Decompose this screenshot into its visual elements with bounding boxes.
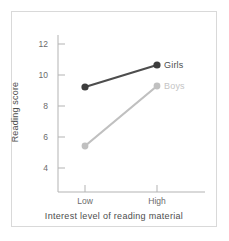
series-line-boys [85, 86, 157, 146]
y-axis-title: Reading score [10, 70, 20, 154]
chart-plot-area [0, 0, 229, 241]
y-tick-label-8: 8 [26, 102, 48, 111]
data-point-girls-high [153, 61, 160, 68]
series-line-girls [85, 65, 157, 87]
y-tick-label-12: 12 [26, 40, 48, 49]
x-axis-title: Interest level of reading material [34, 211, 194, 221]
series-label-boys: Boys [164, 82, 185, 91]
x-tick-label-low: Low [65, 197, 105, 206]
series-label-girls: Girls [164, 61, 184, 70]
y-tick-label-10: 10 [26, 71, 48, 80]
y-tick-label-4: 4 [26, 164, 48, 173]
y-tick-label-6: 6 [26, 133, 48, 142]
data-point-girls-low [81, 83, 88, 90]
data-point-boys-low [82, 143, 89, 150]
chart-figure: 12 10 8 6 4 Low High Reading score Inter… [0, 0, 229, 241]
x-tick-label-high: High [137, 197, 177, 206]
data-point-boys-high [154, 83, 161, 90]
